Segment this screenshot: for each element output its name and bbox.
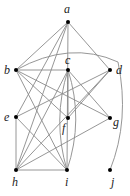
node-label-d: d <box>116 63 123 77</box>
node-label-h: h <box>12 175 18 189</box>
node-h <box>14 168 18 172</box>
node-e <box>14 115 18 119</box>
node-label-j: j <box>109 175 115 189</box>
node-a <box>66 20 70 24</box>
node-j <box>108 168 112 172</box>
node-d <box>108 68 112 72</box>
node-i <box>65 168 69 172</box>
edge-a-b <box>16 22 68 70</box>
edge-a-h <box>16 22 68 170</box>
node-label-g: g <box>113 115 119 129</box>
node-label-a: a <box>64 2 70 16</box>
node-label-b: b <box>4 63 10 77</box>
node-label-c: c <box>65 53 71 67</box>
node-g <box>108 116 112 120</box>
graph-edges <box>16 22 110 170</box>
node-label-e: e <box>4 110 10 124</box>
graph-diagram: abcdefghij <box>0 0 130 196</box>
node-label-f: f <box>62 121 67 135</box>
node-label-i: i <box>65 175 68 189</box>
node-c <box>66 68 70 72</box>
edge-a-d <box>68 22 110 70</box>
edge-a-e <box>16 22 68 117</box>
node-b <box>14 68 18 72</box>
node-f <box>66 116 70 120</box>
